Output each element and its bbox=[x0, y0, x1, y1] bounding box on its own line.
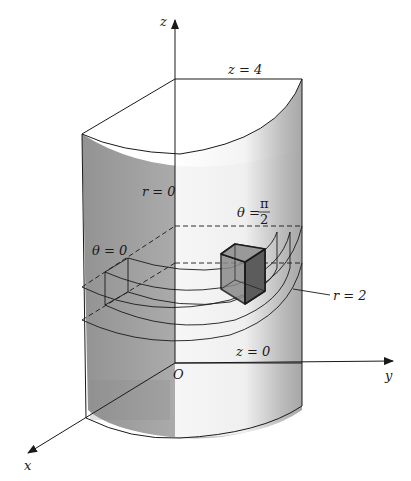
origin-label: O bbox=[173, 367, 184, 382]
x-axis-label: x bbox=[24, 458, 32, 473]
top-plane-label: z = 4 bbox=[227, 62, 262, 77]
inner-radius-label: r = 0 bbox=[142, 184, 176, 199]
bottom-plane-label: z = 0 bbox=[235, 344, 270, 359]
cylindrical-region-diagram: z y x O z = 4 z = 0 r = 0 r = 2 θ = 0 θ … bbox=[0, 0, 411, 481]
y-axis-label: y bbox=[384, 368, 393, 383]
svg-text:θ =: θ = bbox=[237, 205, 260, 220]
svg-text:π: π bbox=[260, 196, 269, 211]
outer-radius-label: r = 2 bbox=[333, 288, 367, 303]
z-axis-label: z bbox=[159, 14, 167, 29]
theta-start-label: θ = 0 bbox=[92, 243, 127, 258]
svg-text:2: 2 bbox=[260, 212, 268, 227]
